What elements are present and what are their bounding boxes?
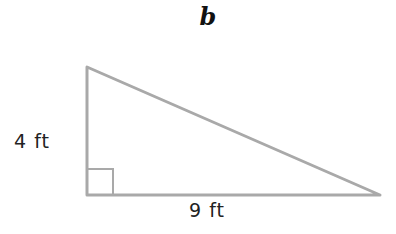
triangle-shape <box>87 67 380 195</box>
horizontal-leg-label: 9 ft <box>189 199 225 221</box>
vertical-leg-label: 4 ft <box>14 130 50 152</box>
right-angle-marker <box>87 169 113 195</box>
